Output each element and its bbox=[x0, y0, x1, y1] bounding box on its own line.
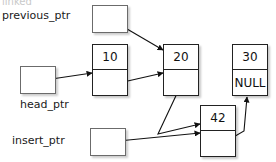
pointer-label-head-ptr: head_ptr bbox=[20, 98, 69, 111]
pointer-box-head-ptr bbox=[20, 66, 56, 94]
list-node-42: 42 bbox=[200, 105, 236, 157]
linked-list-insertion-diagram: linked previous_ptrhead_ptrinsert_ptr 10… bbox=[0, 0, 276, 162]
list-node-10: 10 bbox=[92, 44, 128, 96]
pointer-box-insert-ptr bbox=[90, 128, 126, 156]
node-next-20 bbox=[164, 70, 198, 95]
pointer-label-insert-ptr: insert_ptr bbox=[12, 134, 65, 147]
list-node-30: 30NULL bbox=[232, 44, 268, 96]
node-value-20: 20 bbox=[164, 45, 198, 70]
node-value-10: 10 bbox=[93, 45, 127, 70]
node-next-30: NULL bbox=[233, 70, 267, 95]
pointer-label-previous-ptr: previous_ptr bbox=[2, 9, 70, 22]
node-next-10 bbox=[93, 70, 127, 95]
node-value-30: 30 bbox=[233, 45, 267, 70]
node-next-42 bbox=[201, 131, 235, 156]
node-value-42: 42 bbox=[201, 106, 235, 131]
pointer-box-previous-ptr bbox=[92, 5, 128, 33]
list-node-20: 20 bbox=[163, 44, 199, 96]
